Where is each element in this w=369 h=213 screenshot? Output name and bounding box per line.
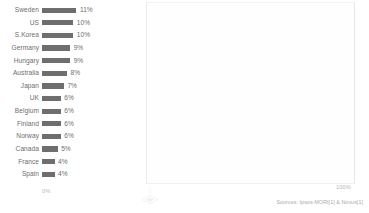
bar-value-label: 6% bbox=[64, 118, 74, 131]
bar-row-track: 6% bbox=[42, 92, 355, 105]
bar-row-track: 10% bbox=[42, 29, 355, 42]
bar-chart: Sweden11%US10%S.Korea10%Germany9%Hungary… bbox=[0, 0, 369, 213]
bar bbox=[42, 109, 61, 114]
bar-row: Canada5% bbox=[0, 143, 369, 156]
bar-row: S.Korea10% bbox=[0, 29, 369, 42]
bar bbox=[42, 134, 61, 139]
bar-value-label: 6% bbox=[64, 92, 74, 105]
bar-row-track: 7% bbox=[42, 80, 355, 93]
bar-row: Sweden11% bbox=[0, 4, 369, 17]
bar-row-track: 6% bbox=[42, 118, 355, 131]
bar-value-label: 7% bbox=[67, 80, 77, 93]
bar-value-label: 6% bbox=[64, 130, 74, 143]
bar-rows: Sweden11%US10%S.Korea10%Germany9%Hungary… bbox=[0, 4, 369, 181]
bar-row-label: S.Korea bbox=[0, 29, 39, 42]
bar-row-label: Spain bbox=[0, 168, 39, 181]
bar-row: Japan7% bbox=[0, 80, 369, 93]
bar-row-label: Sweden bbox=[0, 4, 39, 17]
bar-value-label: 9% bbox=[74, 55, 84, 68]
bar bbox=[42, 172, 55, 177]
bar-value-label: 11% bbox=[80, 4, 93, 17]
bar-row: Norway6% bbox=[0, 130, 369, 143]
bar bbox=[42, 83, 64, 88]
bar-row-track: 5% bbox=[42, 143, 355, 156]
bar-row-label: UK bbox=[0, 92, 39, 105]
bar-row-track: 9% bbox=[42, 55, 355, 68]
bar bbox=[42, 146, 58, 151]
bar-row-track: 10% bbox=[42, 17, 355, 30]
bar-row-label: Hungary bbox=[0, 55, 39, 68]
bar-row: Finland6% bbox=[0, 118, 369, 131]
bar-value-label: 6% bbox=[64, 105, 74, 118]
bar-row-label: Belgium bbox=[0, 105, 39, 118]
bar bbox=[42, 121, 61, 126]
bar-row-label: Japan bbox=[0, 80, 39, 93]
bar bbox=[42, 58, 70, 63]
bar-value-label: 4% bbox=[58, 168, 68, 181]
bar-row-track: 8% bbox=[42, 67, 355, 80]
bar-value-label: 8% bbox=[71, 67, 81, 80]
bar-value-label: 5% bbox=[61, 143, 71, 156]
bar-row: Germany9% bbox=[0, 42, 369, 55]
bar-row-label: Norway bbox=[0, 130, 39, 143]
bar-row: France4% bbox=[0, 156, 369, 169]
bar-row: UK6% bbox=[0, 92, 369, 105]
bar-row: Belgium6% bbox=[0, 105, 369, 118]
bar-row-label: France bbox=[0, 156, 39, 169]
bar-value-label: 4% bbox=[58, 156, 68, 169]
bar bbox=[42, 71, 67, 76]
bar-value-label: 9% bbox=[74, 42, 84, 55]
source-note: Sources: Ipsos-MORI[1] & Novus[1] bbox=[276, 199, 363, 205]
bar-row-track: 9% bbox=[42, 42, 355, 55]
bar-row-label: Germany bbox=[0, 42, 39, 55]
bar bbox=[42, 96, 61, 101]
bar-row-track: 6% bbox=[42, 130, 355, 143]
bar-row: US10% bbox=[0, 17, 369, 30]
bar bbox=[42, 45, 70, 50]
bar bbox=[42, 159, 55, 164]
bar-row-label: Australia bbox=[0, 67, 39, 80]
bar-value-label: 10% bbox=[77, 29, 90, 42]
bar-row-track: 4% bbox=[42, 168, 355, 181]
axis-tick-min: 0% bbox=[42, 188, 50, 194]
bar-row-track: 11% bbox=[42, 4, 355, 17]
bar-row: Spain4% bbox=[0, 168, 369, 181]
bar-row: Australia8% bbox=[0, 67, 369, 80]
axis-tick-max: 100% bbox=[336, 184, 351, 190]
diamond-watermark bbox=[138, 188, 162, 206]
bar-row-label: Canada bbox=[0, 143, 39, 156]
bar-row: Hungary9% bbox=[0, 55, 369, 68]
bar bbox=[42, 20, 73, 25]
bar bbox=[42, 8, 76, 13]
bar-row-track: 6% bbox=[42, 105, 355, 118]
bar-row-label: US bbox=[0, 17, 39, 30]
bar bbox=[42, 33, 73, 38]
bar-value-label: 10% bbox=[77, 17, 90, 30]
bar-row-label: Finland bbox=[0, 118, 39, 131]
bar-row-track: 4% bbox=[42, 156, 355, 169]
